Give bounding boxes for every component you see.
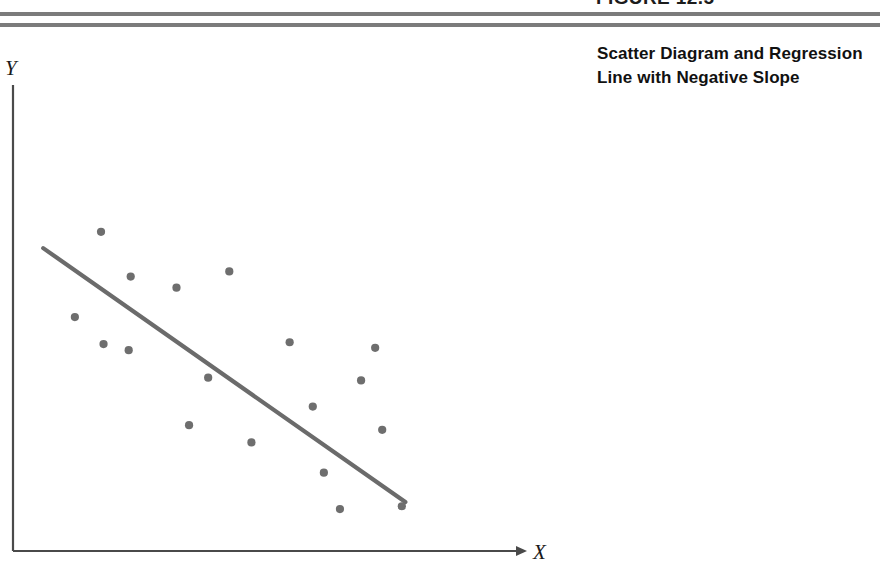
scatter-point [247, 438, 255, 446]
scatter-point [99, 340, 107, 348]
scatter-point [398, 502, 406, 510]
scatter-point [378, 426, 386, 434]
scatter-point [71, 313, 79, 321]
scatter-point [225, 267, 233, 275]
header-rule-bottom [0, 23, 880, 27]
scatter-point [172, 284, 180, 292]
scatter-point [125, 346, 133, 354]
scatter-point [185, 421, 193, 429]
regression-line [43, 248, 405, 502]
scatter-point [309, 402, 317, 410]
x-axis-arrowhead [516, 546, 527, 556]
scatter-point [97, 228, 105, 236]
y-axis-label: Y [5, 56, 19, 80]
figure-caption: Scatter Diagram and Regression Line with… [597, 42, 865, 90]
scatter-plot-svg: Y X [0, 40, 580, 568]
scatter-point [336, 505, 344, 513]
scatter-point [286, 338, 294, 346]
scatter-point [320, 469, 328, 477]
scatter-point [371, 344, 379, 352]
scatter-points-group [71, 228, 406, 513]
header-rule-top [0, 12, 880, 16]
x-axis-label: X [532, 540, 547, 564]
scatter-point [127, 272, 135, 280]
scatter-plot: Y X [0, 40, 580, 568]
figure-number-heading: FIGURE 12.5 [596, 0, 714, 9]
scatter-point [204, 374, 212, 382]
scatter-point [357, 376, 365, 384]
